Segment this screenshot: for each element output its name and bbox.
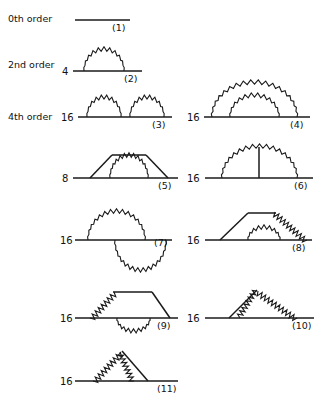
- diagram-number-6: (6): [294, 180, 307, 191]
- diagram-number-7: (7): [154, 237, 167, 248]
- diagram-number-11: (11): [157, 383, 177, 394]
- diagram-number-3: (3): [152, 119, 165, 130]
- diagram-number-8: (8): [292, 242, 305, 253]
- diagram-7: 16(7): [60, 209, 172, 272]
- diagram-number-1: (1): [112, 22, 125, 33]
- diagram-number-4: (4): [290, 119, 303, 130]
- diagram-number-2: (2): [124, 73, 137, 84]
- diagrams-group: (1)4(2)16(3)16(4)8(5)16(6)16(7)16(8)16(9…: [60, 20, 314, 394]
- photon-line-8-0: [248, 225, 280, 240]
- diagram-count-label-3: 16: [61, 112, 74, 123]
- diagram-9: 16(9): [60, 292, 178, 333]
- diagram-number-10: (10): [292, 320, 312, 331]
- photon-line-2-0: [84, 47, 124, 71]
- order-label-0: 0th order: [8, 13, 52, 24]
- diagram-count-label-6: 16: [187, 173, 200, 184]
- diagram-8: 16(8): [187, 212, 312, 253]
- order-label-2: 4th order: [8, 111, 52, 122]
- diagram-4: 16(4): [187, 80, 310, 130]
- diagram-3: 16(3): [61, 95, 172, 130]
- diagram-count-label-10: 16: [187, 313, 200, 324]
- fermion-segment-8-0: [220, 213, 248, 240]
- photon-line-3-0: [87, 95, 121, 117]
- photon-line-11-0: [93, 352, 122, 382]
- photon-line-9-1: [117, 318, 150, 333]
- diagram-2: 4(2): [62, 47, 142, 84]
- diagram-number-5: (5): [158, 180, 171, 191]
- photon-line-9-0: [90, 292, 116, 319]
- photon-line-7-0: [88, 209, 146, 240]
- photon-line-10-0: [238, 290, 257, 318]
- diagram-1: (1): [75, 20, 130, 33]
- fermion-segment-9-1: [152, 292, 170, 318]
- photon-line-5-0: [110, 153, 148, 178]
- diagram-count-label-2: 4: [62, 66, 68, 77]
- photon-line-8-1: [274, 212, 307, 242]
- photon-line-4-1: [230, 93, 280, 117]
- diagram-count-label-11: 16: [60, 376, 73, 387]
- diagram-10: 16(10): [187, 290, 314, 331]
- diagram-11: 16(11): [60, 351, 178, 394]
- diagram-number-9: (9): [157, 320, 170, 331]
- photon-line-4-0: [211, 80, 297, 117]
- diagram-count-label-4: 16: [187, 112, 200, 123]
- diagram-count-label-8: 16: [187, 235, 200, 246]
- photon-line-10-1: [257, 291, 297, 320]
- feynman-diagram-figure: 0th order2nd order4th order (1)4(2)16(3)…: [0, 0, 325, 412]
- photon-line-3-1: [130, 95, 164, 117]
- diagram-6: 16(6): [187, 144, 313, 191]
- order-label-1: 2nd order: [8, 59, 55, 70]
- diagram-count-label-9: 16: [60, 313, 73, 324]
- diagram-count-label-7: 16: [60, 235, 73, 246]
- fermion-segment-5-2: [146, 155, 168, 178]
- fermion-segment-5-0: [90, 155, 112, 178]
- diagram-5: 8(5): [62, 153, 178, 191]
- order-labels-group: 0th order2nd order4th order: [8, 13, 55, 122]
- diagram-count-label-5: 8: [62, 173, 68, 184]
